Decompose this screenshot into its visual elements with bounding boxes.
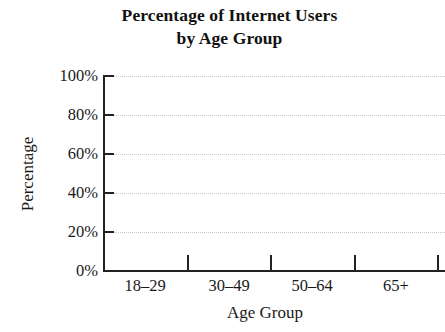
y-tick-mark-100 <box>104 75 114 77</box>
gridline-40 <box>114 193 445 194</box>
chart-title: Percentage of Internet Users by Age Grou… <box>0 4 445 50</box>
y-tick-mark-80 <box>104 114 114 116</box>
x-tick-mark-2 <box>270 255 272 271</box>
y-axis-title: Percentage <box>18 119 38 229</box>
y-tick-label-60: 60% <box>30 146 98 163</box>
x-tick-label-30-49: 30–49 <box>187 276 271 295</box>
x-tick-label-50-64: 50–64 <box>270 276 354 295</box>
gridline-60 <box>114 154 445 155</box>
x-tick-mark-4 <box>437 255 439 271</box>
gridline-100 <box>114 76 445 77</box>
y-tick-mark-60 <box>104 153 114 155</box>
x-axis-title: Age Group <box>173 303 357 323</box>
gridlines <box>103 76 445 271</box>
x-axis-line <box>103 270 445 272</box>
x-tick-label-65-plus: 65+ <box>354 276 438 295</box>
x-tick-label-18-29: 18–29 <box>103 276 187 295</box>
gridline-20 <box>114 232 445 233</box>
plot-area <box>103 76 445 271</box>
x-tick-mark-3 <box>354 255 356 271</box>
y-tick-label-0: 0% <box>30 263 98 280</box>
y-tick-label-100: 100% <box>30 68 98 85</box>
y-tick-label-20: 20% <box>30 224 98 241</box>
y-tick-mark-20 <box>104 231 114 233</box>
chart-title-line-1: Percentage of Internet Users <box>0 4 445 27</box>
y-tick-label-40: 40% <box>30 185 98 202</box>
x-tick-mark-1 <box>187 255 189 271</box>
chart-title-line-2: by Age Group <box>0 27 445 50</box>
y-tick-mark-40 <box>104 192 114 194</box>
y-tick-label-80: 80% <box>30 107 98 124</box>
chart-figure: Percentage of Internet Users by Age Grou… <box>0 0 445 332</box>
gridline-80 <box>114 115 445 116</box>
y-axis-line <box>103 75 105 272</box>
